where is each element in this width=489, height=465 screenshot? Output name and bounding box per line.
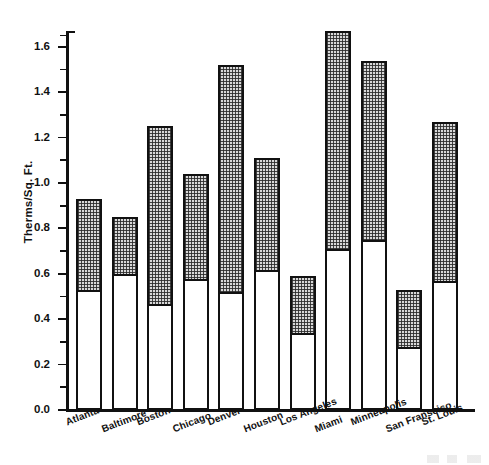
bar-segment-lower — [325, 251, 351, 410]
bar-los-angeles — [290, 276, 316, 410]
bar-segment-upper — [290, 276, 316, 335]
y-axis-tick-label: 1.2 — [14, 132, 50, 144]
bar-segment-lower — [76, 292, 102, 410]
bar-segment-lower — [112, 276, 138, 410]
bar-chicago — [183, 174, 209, 410]
bar-minneapolis — [361, 61, 387, 410]
x-axis-tick-label: Houston — [242, 409, 284, 434]
bar-segment-upper — [76, 199, 102, 292]
y-axis-tick-label: 1.0 — [14, 177, 50, 189]
bar-segment-lower — [432, 283, 458, 410]
y-axis-tick-label: 0.4 — [14, 313, 50, 325]
x-axis-tick-label: Miami — [313, 414, 344, 435]
bar-baltimore — [112, 217, 138, 410]
bar-atlanta — [76, 199, 102, 410]
y-axis-tick-label: 0.6 — [14, 268, 50, 280]
bar-segment-upper — [396, 290, 422, 349]
x-axis-tick-label: Chicago — [171, 410, 212, 435]
bar-houston — [254, 158, 280, 410]
bar-segment-upper — [325, 31, 351, 251]
scan-artifact — [427, 455, 481, 463]
bar-segment-lower — [361, 242, 387, 410]
bar-denver — [218, 65, 244, 410]
y-axis-tick-label: 1.4 — [14, 86, 50, 98]
y-axis-title: Therms/Sq. Ft. — [22, 132, 34, 272]
y-axis-tick-label: 1.6 — [14, 41, 50, 53]
bar-segment-lower — [147, 306, 173, 410]
bar-san-fransciso — [396, 290, 422, 410]
bar-miami — [325, 31, 351, 410]
y-axis-tick-label: 0.8 — [14, 222, 50, 234]
bar-st-louis — [432, 122, 458, 410]
bar-segment-upper — [183, 174, 209, 281]
y-axis-tick-label: 0.0 — [14, 404, 50, 416]
bar-segment-upper — [218, 65, 244, 294]
bar-segment-upper — [147, 126, 173, 305]
bar-segment-lower — [218, 294, 244, 410]
bar-segment-lower — [254, 272, 280, 410]
y-axis-tick-label: 0.2 — [14, 359, 50, 371]
bar-boston — [147, 126, 173, 410]
stacked-bar-chart: Therms/Sq. Ft. 0.00.20.40.60.81.01.21.41… — [0, 0, 489, 465]
bar-segment-upper — [254, 158, 280, 271]
bar-segment-upper — [432, 122, 458, 283]
bar-segment-lower — [183, 281, 209, 410]
bar-segment-upper — [361, 61, 387, 243]
plot-area — [66, 31, 473, 410]
bar-segment-lower — [290, 335, 316, 410]
bar-segment-upper — [112, 217, 138, 276]
